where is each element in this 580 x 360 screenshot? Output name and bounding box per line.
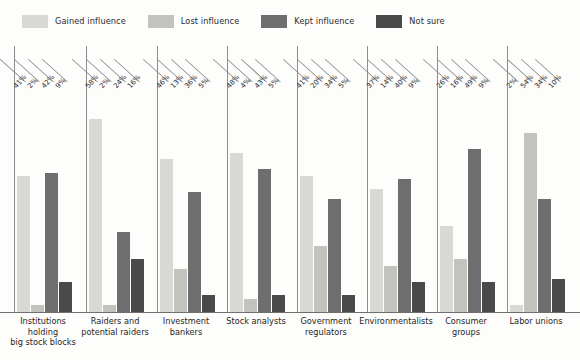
bar-gained[interactable] xyxy=(440,226,453,312)
bar-kept[interactable] xyxy=(188,192,201,312)
bar-not_sure[interactable] xyxy=(131,259,144,312)
bar-kept[interactable] xyxy=(398,179,411,312)
category-label-line: bankers xyxy=(144,327,228,338)
bar-gained[interactable] xyxy=(370,189,383,312)
legend-swatch-kept xyxy=(261,15,287,28)
legend-label-not_sure: Not sure xyxy=(409,16,444,26)
bar-group xyxy=(507,40,577,312)
category-label: Labor unions xyxy=(494,316,578,327)
bar-not_sure[interactable] xyxy=(59,282,72,312)
bar-lost[interactable] xyxy=(103,305,116,312)
bar-gained[interactable] xyxy=(300,176,313,312)
category-label-line: groups xyxy=(424,327,508,338)
bar-group xyxy=(14,40,84,312)
chart-page: Gained influenceLost influenceKept influ… xyxy=(0,0,580,360)
bar-not_sure[interactable] xyxy=(552,279,565,312)
bar-lost[interactable] xyxy=(244,299,257,312)
bar-group xyxy=(157,40,227,312)
bar-not_sure[interactable] xyxy=(202,295,215,312)
legend-label-lost: Lost influence xyxy=(181,16,239,26)
bar-gained[interactable] xyxy=(230,153,243,312)
bar-not_sure[interactable] xyxy=(412,282,425,312)
bar-lost[interactable] xyxy=(31,305,44,312)
group-axis-line xyxy=(507,46,508,312)
legend-swatch-not_sure xyxy=(376,15,402,28)
group-axis-line xyxy=(157,46,158,312)
plot-area xyxy=(0,40,580,312)
bar-group xyxy=(367,40,437,312)
bar-cluster xyxy=(230,40,286,312)
group-axis-line xyxy=(367,46,368,312)
bar-cluster xyxy=(160,40,216,312)
bar-cluster xyxy=(89,40,145,312)
legend-item-lost[interactable]: Lost influence xyxy=(148,15,239,28)
bar-kept[interactable] xyxy=(328,199,341,312)
bar-cluster xyxy=(510,40,566,312)
bar-lost[interactable] xyxy=(314,246,327,312)
legend-item-gained[interactable]: Gained influence xyxy=(22,15,126,28)
legend-item-not_sure[interactable]: Not sure xyxy=(376,15,444,28)
bar-group xyxy=(437,40,507,312)
group-axis-line xyxy=(297,46,298,312)
bar-cluster xyxy=(300,40,356,312)
bar-cluster xyxy=(370,40,426,312)
x-axis-baseline xyxy=(0,312,580,313)
group-axis-line xyxy=(86,46,87,312)
bar-gained[interactable] xyxy=(510,305,523,312)
bar-gained[interactable] xyxy=(17,176,30,312)
bar-cluster xyxy=(17,40,73,312)
bar-gained[interactable] xyxy=(160,159,173,312)
category-label-line: Labor unions xyxy=(494,316,578,327)
group-axis-line xyxy=(14,46,15,312)
bar-lost[interactable] xyxy=(524,133,537,312)
bar-kept[interactable] xyxy=(258,169,271,312)
bar-kept[interactable] xyxy=(45,173,58,312)
bar-not_sure[interactable] xyxy=(272,295,285,312)
category-label-line: big stock blocks xyxy=(1,337,85,348)
group-axis-line xyxy=(227,46,228,312)
bar-lost[interactable] xyxy=(384,266,397,312)
legend-label-kept: Kept influence xyxy=(294,16,354,26)
bar-not_sure[interactable] xyxy=(342,295,355,312)
bar-lost[interactable] xyxy=(454,259,467,312)
bar-kept[interactable] xyxy=(468,149,481,312)
bar-group xyxy=(227,40,297,312)
legend-item-kept[interactable]: Kept influence xyxy=(261,15,354,28)
bar-kept[interactable] xyxy=(538,199,551,312)
category-label-line: regulators xyxy=(284,327,368,338)
chart-legend: Gained influenceLost influenceKept influ… xyxy=(22,12,562,30)
legend-swatch-lost xyxy=(148,15,174,28)
legend-label-gained: Gained influence xyxy=(55,16,126,26)
bar-cluster xyxy=(440,40,496,312)
legend-swatch-gained xyxy=(22,15,48,28)
bar-not_sure[interactable] xyxy=(482,282,495,312)
bar-lost[interactable] xyxy=(174,269,187,312)
bar-group xyxy=(86,40,156,312)
bar-gained[interactable] xyxy=(89,119,102,312)
bar-kept[interactable] xyxy=(117,232,130,312)
bar-group xyxy=(297,40,367,312)
group-axis-line xyxy=(437,46,438,312)
